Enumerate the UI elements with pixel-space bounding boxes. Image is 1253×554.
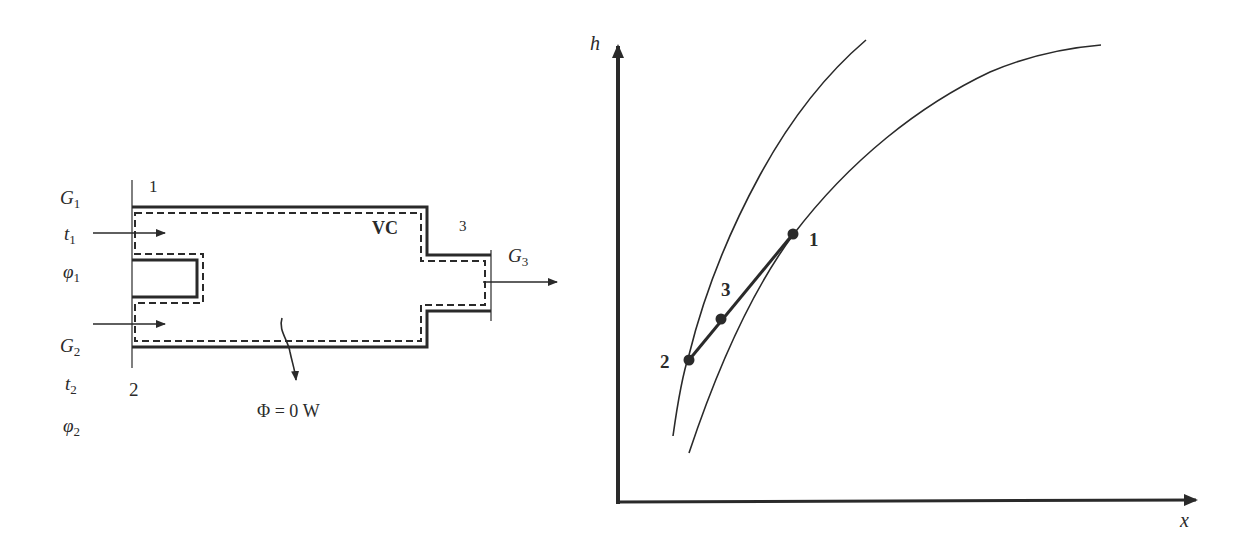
mixing-diagram: 1 G1 t1 φ1 G2 t2 2 φ2 3 G3 VC Φ = 0 W <box>0 0 1253 554</box>
g2-label: G2 <box>60 335 80 359</box>
chamber-wall-upper <box>132 207 491 255</box>
x-axis-label: x <box>1179 509 1189 531</box>
g3-label: G3 <box>508 245 528 269</box>
section-3-label: 3 <box>459 218 467 234</box>
control-volume-boundary <box>135 213 485 341</box>
t2-label: t2 <box>65 373 77 397</box>
curve-right <box>689 45 1101 453</box>
g1-label: G1 <box>60 187 80 211</box>
point-1-marker <box>788 229 799 240</box>
control-volume-label: VC <box>372 218 398 238</box>
inlet-partition-wall <box>132 260 197 297</box>
section-2-label: 2 <box>129 379 139 400</box>
point-3-marker <box>716 314 727 325</box>
x-axis <box>616 500 1196 502</box>
heat-flow-label: Φ = 0 W <box>257 401 320 421</box>
point-2-marker <box>684 355 695 366</box>
point-3-label: 3 <box>721 279 731 300</box>
point-2-label: 2 <box>660 351 670 372</box>
t1-label: t1 <box>64 223 76 247</box>
heat-flow-arrow <box>281 318 296 380</box>
h-x-chart: h x 1 3 2 <box>590 32 1196 531</box>
point-1-label: 1 <box>809 229 819 250</box>
y-axis-label: h <box>590 32 600 54</box>
phi2-label: φ2 <box>63 415 80 439</box>
curve-left <box>673 40 866 436</box>
mixing-line <box>689 234 793 360</box>
phi1-label: φ1 <box>63 261 80 285</box>
mixing-chamber-schematic: 1 G1 t1 φ1 G2 t2 2 φ2 3 G3 VC Φ = 0 W <box>60 177 557 439</box>
section-1-label: 1 <box>149 177 158 196</box>
